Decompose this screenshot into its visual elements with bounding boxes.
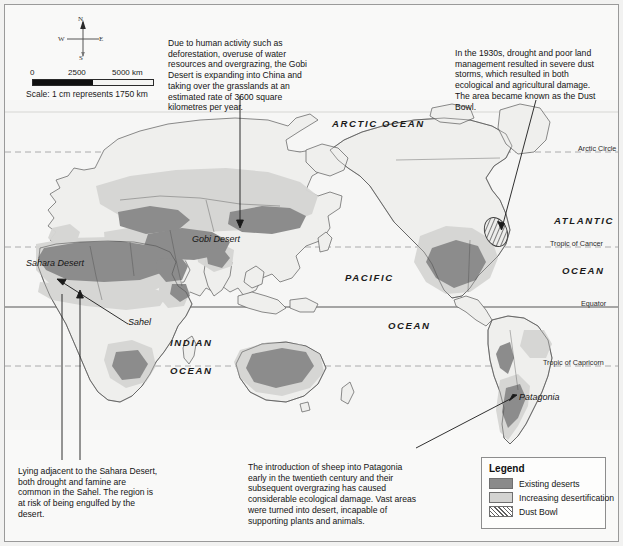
annotation-sahel: Lying adjacent to the Sahara Desert, bot… xyxy=(18,466,158,520)
compass-label-south: S xyxy=(79,54,83,62)
scale-segment-dark xyxy=(33,80,93,85)
legend-title: Legend xyxy=(489,463,599,474)
legend-label-existing-deserts: Existing deserts xyxy=(519,479,580,489)
scale-tick-5000: 5000 km xyxy=(112,68,143,77)
annotation-dust-bowl: In the 1930s, drought and poor land mana… xyxy=(455,48,607,112)
legend-item-increasing-desertification: Increasing desertification xyxy=(489,492,599,503)
annotation-gobi-desert: Due to human activity such as deforestat… xyxy=(168,38,320,113)
scale-bar-ticks: 0 2500 5000 km xyxy=(26,68,162,79)
annotation-patagonia: The introduction of sheep into Patagonia… xyxy=(248,462,420,526)
landmass-tasmania xyxy=(300,402,310,412)
compass-label-north: N xyxy=(78,15,83,23)
map-legend: Legend Existing deserts Increasing deser… xyxy=(481,457,606,529)
scale-tick-2500: 2500 xyxy=(68,68,86,77)
compass-label-west: W xyxy=(58,35,65,43)
legend-swatch-dust-bowl xyxy=(489,506,513,517)
legend-label-dust-bowl: Dust Bowl xyxy=(519,507,558,517)
compass-rose: N S W E xyxy=(56,16,110,64)
scale-tick-0: 0 xyxy=(30,68,34,77)
legend-swatch-existing-deserts xyxy=(489,478,513,489)
legend-item-dust-bowl: Dust Bowl xyxy=(489,506,599,517)
legend-label-increasing-desertification: Increasing desertification xyxy=(519,493,614,503)
compass-label-east: E xyxy=(99,35,103,43)
scale-segment-light xyxy=(93,80,153,85)
legend-swatch-increasing-desertification xyxy=(489,492,513,503)
scale-bar: 0 2500 5000 km Scale: 1 cm represents 17… xyxy=(26,68,162,99)
scale-bar-graphic xyxy=(32,79,154,86)
legend-item-existing-deserts: Existing deserts xyxy=(489,478,599,489)
screenshot-root: N S W E 0 2500 5000 km Scale: 1 cm repre… xyxy=(0,0,623,546)
scale-caption: Scale: 1 cm represents 1750 km xyxy=(26,89,162,99)
